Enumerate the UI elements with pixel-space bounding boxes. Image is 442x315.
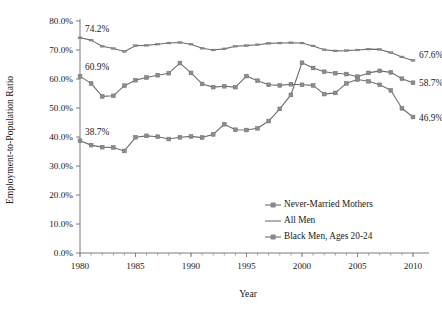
data-point	[189, 135, 193, 139]
legend-item-1[interactable]: Never-Married Mothers	[265, 199, 373, 209]
data-point	[111, 48, 115, 50]
data-point	[178, 135, 182, 139]
data-point	[78, 139, 82, 143]
data-point	[311, 45, 315, 47]
data-point	[122, 51, 126, 53]
data-point	[311, 66, 315, 70]
data-point	[211, 49, 215, 51]
series-line-2	[80, 38, 413, 61]
y-axis-title: Employment-to-Population Ratio	[4, 76, 15, 204]
data-point	[200, 82, 204, 86]
data-point	[289, 42, 293, 44]
data-point	[111, 94, 115, 98]
legend-label: Never-Married Mothers	[284, 199, 373, 209]
data-point	[111, 146, 115, 150]
legend-item-2[interactable]: All Men	[265, 215, 316, 225]
data-point	[189, 71, 193, 75]
data-point	[78, 37, 82, 39]
data-point	[400, 106, 404, 110]
y-tick-label: 60.0%	[49, 74, 73, 84]
x-tick-label: 1980	[71, 261, 90, 271]
data-point	[333, 50, 337, 52]
data-point	[322, 49, 326, 51]
endpoint-label: 38.7%	[85, 127, 109, 137]
data-point	[200, 136, 204, 140]
x-tick-label: 1995	[237, 261, 256, 271]
series-line-3	[80, 63, 413, 117]
data-point	[411, 60, 415, 62]
data-point	[256, 44, 260, 46]
data-point	[256, 79, 260, 83]
data-point	[89, 81, 93, 85]
data-point	[100, 145, 104, 149]
data-point	[100, 95, 104, 99]
data-point	[367, 71, 371, 75]
y-tick-label: 40.0%	[49, 132, 73, 142]
data-point	[123, 149, 127, 153]
data-point	[345, 81, 349, 85]
x-tick-label: 1985	[126, 261, 145, 271]
data-point	[278, 83, 282, 87]
data-point	[233, 45, 237, 47]
data-point	[156, 43, 160, 45]
data-point	[256, 126, 260, 130]
x-tick-label: 2000	[293, 261, 312, 271]
data-point	[378, 83, 382, 87]
y-tick-label: 30.0%	[49, 161, 73, 171]
data-point	[134, 135, 138, 139]
data-point	[222, 84, 226, 88]
data-point	[189, 43, 193, 45]
line-chart: 0.0%10.0%20.0%30.0%40.0%50.0%60.0%70.0%8…	[0, 0, 442, 315]
data-point	[211, 85, 215, 89]
data-point	[322, 92, 326, 96]
data-point	[156, 135, 160, 139]
chart-container: 0.0%10.0%20.0%30.0%40.0%50.0%60.0%70.0%8…	[0, 0, 442, 315]
y-tick-label: 70.0%	[49, 45, 73, 55]
endpoint-label: 46.9%	[419, 113, 442, 123]
chart-legend[interactable]: Never-Married MothersAll MenBlack Men, A…	[265, 199, 373, 241]
y-tick-label: 50.0%	[49, 103, 73, 113]
data-point	[311, 83, 315, 87]
data-point	[278, 42, 282, 44]
data-point	[300, 61, 304, 65]
data-point	[245, 45, 249, 47]
data-point	[267, 42, 271, 44]
y-tick-label: 10.0%	[49, 219, 73, 229]
data-point	[333, 71, 337, 75]
data-point	[367, 48, 371, 50]
data-point	[245, 128, 249, 132]
legend-marker	[271, 203, 275, 207]
data-point	[145, 44, 149, 46]
data-point	[234, 85, 238, 89]
data-point	[278, 107, 282, 111]
data-point	[378, 49, 382, 51]
endpoint-label: 67.6%	[419, 50, 442, 60]
data-point	[100, 45, 104, 47]
data-point	[89, 143, 93, 147]
data-point	[289, 93, 293, 97]
series-2	[78, 37, 415, 61]
x-tick-label: 2010	[404, 261, 423, 271]
data-point	[222, 122, 226, 126]
x-tick-label: 2005	[348, 261, 367, 271]
endpoint-label: 60.9%	[85, 62, 109, 72]
data-point	[356, 78, 360, 82]
data-point	[389, 52, 393, 54]
legend-item-3[interactable]: Black Men, Ages 20-24	[265, 231, 373, 241]
legend-marker	[271, 235, 275, 239]
data-point	[145, 134, 149, 138]
data-point	[411, 81, 415, 85]
data-point	[389, 70, 393, 74]
data-point	[78, 74, 82, 78]
data-point	[167, 42, 171, 44]
y-axis-ticks: 0.0%10.0%20.0%30.0%40.0%50.0%60.0%70.0%8…	[49, 16, 80, 258]
data-point	[367, 79, 371, 83]
data-point	[333, 91, 337, 95]
data-point	[400, 77, 404, 81]
data-point	[267, 83, 271, 87]
data-point	[178, 42, 182, 44]
data-point	[167, 71, 171, 75]
data-point	[145, 76, 149, 80]
data-point	[134, 78, 138, 82]
data-point	[345, 72, 349, 76]
